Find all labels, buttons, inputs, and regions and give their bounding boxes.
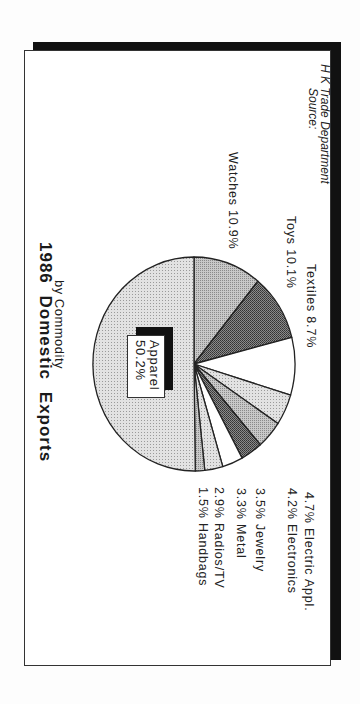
label-electric-appl: 4.7% Electric Appl. <box>302 492 316 611</box>
label-jewelry: 3.5% Jewelry <box>253 488 267 572</box>
label-metal: 3.3% Metal <box>234 488 248 559</box>
chart-subtitle: by Commodity <box>52 280 67 369</box>
apparel-label-value: 50.2% <box>133 340 148 381</box>
apparel-label-name: Apparel <box>147 340 162 390</box>
label-handbags: 1.5% Handbags <box>196 487 210 586</box>
source-name: H K Trade Department <box>318 64 332 184</box>
label-toys: Toys 10.1% <box>284 216 298 289</box>
label-radios-tv: 2.9% Radios/TV <box>212 487 226 589</box>
label-watches: Watches 10.9% <box>226 152 240 249</box>
label-electronics: 4.2% Electronics <box>285 488 299 594</box>
label-textiles: Textiles 8.7% <box>304 264 318 348</box>
